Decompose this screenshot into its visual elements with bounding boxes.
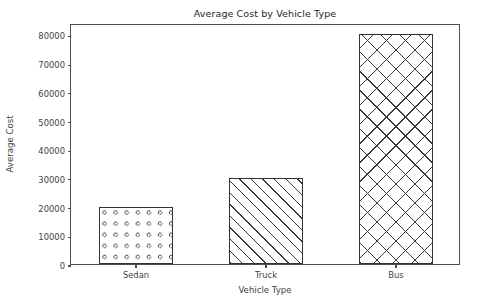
y-tick-mark: [68, 122, 72, 123]
bar-truck: [229, 178, 303, 264]
y-tick-mark: [68, 265, 72, 266]
y-tick-label: 10000: [38, 232, 65, 242]
y-tick-label: 60000: [38, 89, 65, 99]
y-tick-label: 50000: [38, 118, 65, 128]
chart-title: Average Cost by Vehicle Type: [70, 8, 460, 19]
plot-area: 0100002000030000400005000060000700008000…: [70, 24, 460, 265]
x-tick-mark: [135, 264, 136, 268]
chart-figure: Average Cost by Vehicle Type Average Cos…: [0, 0, 484, 308]
x-tick-label: Bus: [388, 270, 403, 280]
x-tick-mark: [265, 264, 266, 268]
x-tick-label: Truck: [255, 270, 277, 280]
y-tick-mark: [68, 208, 72, 209]
y-tick-mark: [68, 151, 72, 152]
bar-bus: [359, 34, 433, 264]
x-tick-mark: [395, 264, 396, 268]
y-axis-label: Average Cost: [5, 115, 15, 172]
y-tick-label: 80000: [38, 31, 65, 41]
bar-sedan: [99, 207, 173, 264]
y-tick-label: 40000: [38, 146, 65, 156]
y-tick-label: 70000: [38, 60, 65, 70]
y-tick-mark: [68, 36, 72, 37]
y-tick-mark: [68, 93, 72, 94]
y-tick-mark: [68, 237, 72, 238]
y-tick-label: 0: [60, 261, 65, 271]
plot-inner: 0100002000030000400005000060000700008000…: [71, 25, 459, 264]
x-tick-label: Sedan: [123, 270, 149, 280]
y-tick-label: 20000: [38, 204, 65, 214]
y-tick-label: 30000: [38, 175, 65, 185]
y-tick-mark: [68, 65, 72, 66]
y-tick-mark: [68, 179, 72, 180]
x-axis-label: Vehicle Type: [70, 285, 460, 295]
